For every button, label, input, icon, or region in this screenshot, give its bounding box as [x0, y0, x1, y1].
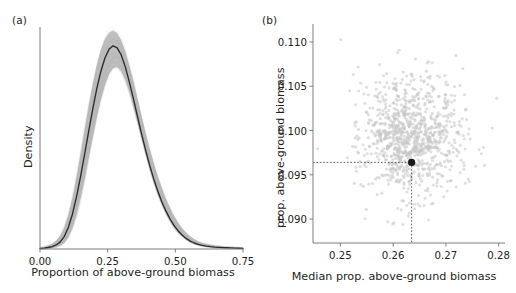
scatter-point [453, 138, 456, 141]
x-tick-label: 0.75 [232, 256, 255, 267]
scatter-point [339, 38, 342, 41]
scatter-point [403, 166, 406, 169]
scatter-point [394, 77, 397, 80]
scatter-point [447, 99, 450, 102]
scatter-point [420, 116, 423, 119]
scatter-point [391, 168, 394, 171]
scatter-point [464, 147, 467, 150]
scatter-point [357, 65, 360, 68]
scatter-point [447, 84, 450, 87]
scatter-point [445, 120, 448, 123]
scatter-point [446, 189, 449, 192]
scatter-point [351, 145, 354, 148]
scatter-point [368, 118, 371, 121]
scatter-point [422, 97, 425, 100]
scatter-point [420, 180, 423, 183]
scatter-point [446, 180, 449, 183]
scatter-point [439, 124, 442, 127]
scatter-point [431, 202, 434, 205]
scatter-point [463, 93, 466, 96]
scatter-point [374, 81, 377, 84]
scatter-point [407, 187, 410, 190]
scatter-point [362, 92, 365, 95]
scatter-point [383, 137, 386, 140]
scatter-point [362, 185, 365, 188]
scatter-point [431, 133, 434, 136]
scatter-point [383, 85, 386, 88]
x-tick-label: 0.50 [164, 256, 187, 267]
scatter-point [400, 155, 403, 158]
scatter-point [403, 111, 406, 114]
scatter-point [391, 164, 394, 167]
scatter-point [411, 87, 414, 90]
scatter-point [428, 101, 431, 104]
scatter-point [413, 78, 416, 81]
scatter-point [417, 97, 420, 100]
scatter-point [408, 180, 411, 183]
scatter-point [430, 117, 433, 120]
scatter-point [408, 112, 411, 115]
scatter-point [423, 133, 426, 136]
scatter-point [429, 193, 432, 196]
scatter-point [386, 179, 389, 182]
scatter-point [403, 125, 406, 128]
scatter-point [423, 79, 426, 82]
scatter-point [406, 120, 409, 123]
scatter-point [426, 161, 429, 164]
scatter-point [376, 142, 379, 145]
scatter-point [355, 170, 358, 173]
scatter-point [364, 217, 367, 220]
scatter-point [443, 160, 446, 163]
scatter-point [421, 174, 424, 177]
scatter-point [397, 141, 400, 144]
scatter-point [424, 102, 427, 105]
scatter-point [420, 79, 423, 82]
scatter-point [388, 126, 391, 129]
scatter-point [423, 168, 426, 171]
scatter-point [399, 135, 402, 138]
scatter-point [385, 167, 388, 170]
x-tick-label: 0.00 [29, 256, 52, 267]
scatter-point [371, 107, 374, 110]
scatter-point [399, 138, 402, 141]
scatter-point [407, 123, 410, 126]
scatter-point [404, 98, 407, 101]
scatter-point [378, 63, 381, 66]
scatter-point [408, 139, 411, 142]
scatter-point [480, 152, 483, 155]
scatter-point [357, 128, 360, 131]
scatter-point [382, 109, 385, 112]
scatter-point [462, 161, 465, 164]
scatter-point [395, 103, 398, 106]
scatter-point [417, 168, 420, 171]
scatter-point [435, 116, 438, 119]
scatter-point [414, 119, 417, 122]
scatter-point [463, 164, 466, 167]
scatter-point [456, 149, 459, 152]
scatter-point [438, 95, 441, 98]
scatter-point [405, 141, 408, 144]
scatter-point [363, 154, 366, 157]
scatter-point [379, 100, 382, 103]
scatter-point [408, 83, 411, 86]
scatter-point [452, 151, 455, 154]
scatter-point [408, 201, 411, 204]
scatter-point [405, 204, 408, 207]
scatter-point [387, 86, 390, 89]
scatter-point [468, 180, 471, 183]
scatter-point [401, 142, 404, 145]
scatter-point [453, 94, 456, 97]
scatter-point [357, 89, 360, 92]
scatter-point [418, 183, 421, 186]
scatter-point [423, 122, 426, 125]
scatter-point [469, 138, 472, 141]
scatter-point [374, 178, 377, 181]
scatter-point [433, 126, 436, 129]
scatter-point [414, 57, 417, 60]
scatter-point [391, 115, 394, 118]
scatter-point [453, 124, 456, 127]
scatter-point [373, 94, 376, 97]
scatter-point [405, 154, 408, 157]
scatter-point [406, 168, 409, 171]
scatter-point [432, 183, 435, 186]
